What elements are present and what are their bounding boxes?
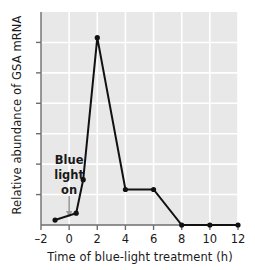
x-axis-tick-label: –2 <box>34 232 47 246</box>
data-point <box>123 187 128 192</box>
data-point <box>235 222 240 227</box>
x-axis-tick-label: 10 <box>203 232 218 246</box>
x-axis-tick-label: 8 <box>178 232 185 246</box>
x-axis-tick-label: 2 <box>94 232 101 246</box>
data-point <box>179 222 184 227</box>
y-axis <box>36 12 41 225</box>
data-point <box>74 211 79 216</box>
annotation-line: on <box>61 183 77 197</box>
x-axis: –2024681012 <box>34 225 245 246</box>
chart-canvas: –2024681012 Bluelighton <box>0 0 255 270</box>
y-axis-ticks <box>36 42 41 194</box>
figure: Relative abundance of GSA mRNA Time of b… <box>0 0 255 270</box>
x-axis-tick-label: 6 <box>150 232 157 246</box>
x-axis-tick-labels: –2024681012 <box>34 232 245 246</box>
data-point <box>52 217 57 222</box>
x-axis-tick-label: 4 <box>122 232 129 246</box>
data-point <box>95 35 100 40</box>
x-axis-tick-label: 12 <box>231 232 246 246</box>
data-point <box>207 222 212 227</box>
x-axis-tick-label: 0 <box>65 232 72 246</box>
annotation-line: light <box>54 168 84 182</box>
annotation-line: Blue <box>55 153 84 167</box>
data-point <box>151 187 156 192</box>
data-point <box>81 177 86 182</box>
